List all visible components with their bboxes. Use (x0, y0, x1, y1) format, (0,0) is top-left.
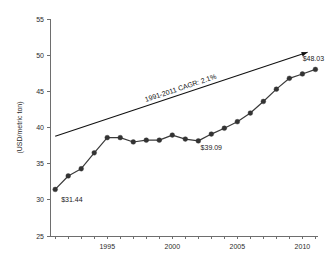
y-axis: 25303540455055 (36, 16, 50, 240)
y-tick-label: 25 (36, 233, 44, 240)
data-point (105, 135, 110, 140)
y-tick-label: 45 (36, 88, 44, 95)
data-point (157, 138, 162, 143)
data-point (144, 138, 149, 143)
annotation-start-value: $31.44 (61, 196, 83, 203)
y-tick-label: 50 (36, 52, 44, 59)
trend-line (55, 52, 307, 136)
annotation-end-value: $48.03 (303, 55, 325, 62)
data-point (313, 67, 318, 72)
trend-cagr-label: 1991-2011 CAGR: 2.1% (144, 73, 217, 103)
chart-container: 25303540455055 1995200020052010 (USD/met… (0, 0, 332, 274)
y-axis-title: (USD/metric ton) (16, 101, 24, 153)
data-point (196, 138, 201, 143)
y-tick-label: 55 (36, 16, 44, 23)
y-tick-label: 35 (36, 160, 44, 167)
annotation-mid-value: $39.09 (201, 144, 223, 151)
data-point (235, 119, 240, 124)
x-tick-label: 1995 (99, 243, 115, 250)
data-point (248, 111, 253, 116)
x-tick-label: 2000 (165, 243, 181, 250)
y-tick-label: 30 (36, 196, 44, 203)
y-tick-label: 40 (36, 124, 44, 131)
data-point (170, 133, 175, 138)
data-point (274, 87, 279, 92)
value-annotations: $31.44$39.09$48.03 (61, 55, 324, 203)
data-point (118, 135, 123, 140)
data-point (222, 126, 227, 131)
data-point (131, 140, 136, 145)
x-axis: 1995200020052010 (50, 236, 318, 250)
data-point (261, 99, 266, 104)
x-tick-label: 2010 (295, 243, 311, 250)
x-tick-label: 2005 (230, 243, 246, 250)
data-point (53, 187, 58, 192)
data-point (183, 137, 188, 142)
data-point (300, 72, 305, 77)
data-point (79, 166, 84, 171)
data-point (66, 174, 71, 179)
data-point (287, 76, 292, 81)
data-point (209, 132, 214, 137)
data-point (92, 150, 97, 155)
trend-arrow: 1991-2011 CAGR: 2.1% (55, 52, 307, 136)
price-trend-chart: 25303540455055 1995200020052010 (USD/met… (0, 0, 332, 274)
y-axis-title-label: (USD/metric ton) (16, 101, 24, 153)
